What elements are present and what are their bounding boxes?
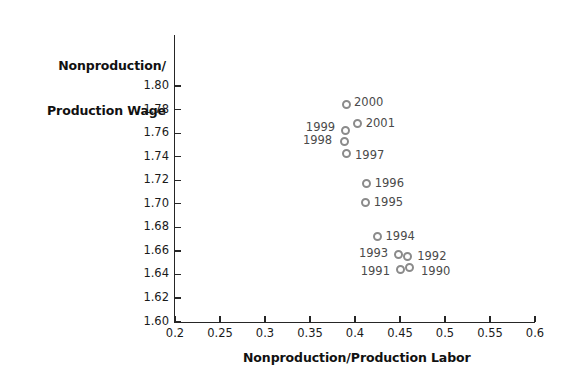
scatter-chart: Nonproduction/ Production Wage 1.801.781… xyxy=(0,0,572,379)
data-point-label: 1990 xyxy=(421,264,450,278)
data-point-label: 1996 xyxy=(375,176,404,190)
data-point-label: 1991 xyxy=(360,264,390,278)
data-point-label: 1999 xyxy=(305,120,335,134)
data-point-label: 1995 xyxy=(374,195,403,209)
data-point-marker xyxy=(342,100,351,109)
data-point-marker xyxy=(340,137,349,146)
data-point-marker xyxy=(394,250,403,259)
data-point-marker xyxy=(396,265,405,274)
data-point-label: 2001 xyxy=(366,116,395,130)
data-point-label: 1994 xyxy=(386,229,415,243)
data-point-label: 1998 xyxy=(302,133,332,147)
data-point-label: 1992 xyxy=(417,249,446,263)
data-point-label: 1993 xyxy=(358,246,388,260)
data-point-marker xyxy=(342,149,351,158)
data-point-marker xyxy=(353,119,362,128)
x-axis-title: Nonproduction/Production Labor xyxy=(243,350,543,365)
data-point-marker xyxy=(341,126,350,135)
data-point-marker xyxy=(373,232,382,241)
data-point-label: 2000 xyxy=(354,95,383,109)
data-point-marker xyxy=(362,179,371,188)
data-point-label: 1997 xyxy=(355,148,384,162)
data-point-marker xyxy=(405,263,414,272)
data-point-marker xyxy=(361,198,370,207)
plot-area: 2000200119991998199719961995199419931992… xyxy=(0,0,572,379)
data-point-marker xyxy=(403,252,412,261)
